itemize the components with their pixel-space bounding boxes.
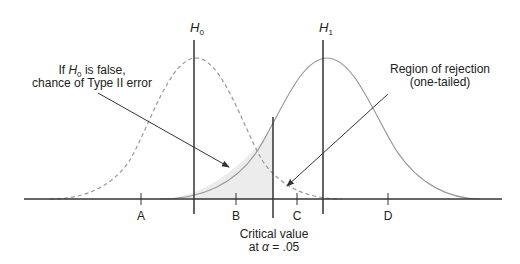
tick-label-d: D [384,209,393,223]
type2-annotation-line2: chance of Type II error [32,76,152,90]
type2-prefix: If [58,63,68,77]
tick-label-c: C [293,209,302,223]
h0-subscript: 0 [199,28,204,37]
type2-suffix: is false, [82,63,126,77]
h0-label: H0 [190,20,204,37]
h1-label: H1 [319,20,333,37]
critical-annotation-line1: Critical value [240,227,309,241]
hypothesis-diagram: A B C D H0 H1 If H0 is false, chance of … [0,0,520,264]
tick-label-b: B [232,209,240,223]
tick-label-a: A [137,209,145,223]
rejection-annotation-line2: (one-tailed) [410,75,471,89]
rejection-arrow [287,94,388,186]
h1-subscript: 1 [328,28,333,37]
type2-error-region [160,128,273,199]
type2-h-symbol: H [68,63,77,77]
critical-prefix: at [249,240,262,254]
critical-annotation-line2: at α = .05 [249,240,300,254]
rejection-annotation-line1: Region of rejection [390,62,490,76]
critical-suffix: = .05 [269,240,300,254]
type2-arrow [98,93,229,167]
